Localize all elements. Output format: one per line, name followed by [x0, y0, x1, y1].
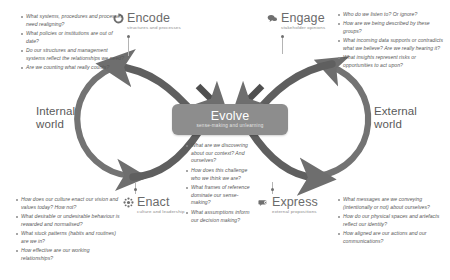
question-item: How are we being described by these grou…	[338, 20, 444, 35]
engage-question-list: Who do we listen to? Or ignore?How are w…	[338, 11, 444, 70]
left-loop-outer-arc	[77, 68, 131, 176]
external-world-line2: world	[374, 118, 417, 131]
node-express-subtitle: external propositions	[272, 210, 318, 215]
node-express-title: Express	[272, 196, 318, 209]
engage-dot	[281, 35, 284, 38]
question-item: Who do we listen to? Or ignore?	[338, 11, 444, 19]
enact-dot	[134, 188, 137, 191]
question-item: What insights represent risks or opportu…	[338, 54, 444, 69]
converge-arrow-right	[244, 86, 262, 104]
converge-arrow-left	[198, 86, 216, 104]
question-item: How does our culture enact our vision an…	[16, 196, 122, 211]
node-enact-subtitle: culture and leadership	[137, 210, 185, 215]
speech-cloud-icon	[267, 13, 278, 24]
express-question-list: What messages are we conveying (intentio…	[338, 196, 444, 246]
question-item: What assumptions inform our decision mak…	[186, 209, 250, 224]
question-item: What frames of reference dominate our se…	[186, 184, 250, 207]
external-world-line1: External	[374, 105, 417, 118]
evolve-center-card: Evolve sense-making and unlearning	[172, 104, 288, 135]
question-item: What incoming data supports or contradic…	[338, 37, 444, 52]
node-engage-subtitle: stakeholder opinions	[281, 26, 325, 31]
internal-world-label: Internal world	[36, 105, 75, 131]
evolve-question-list: What are we discovering about our contex…	[186, 142, 250, 224]
question-item: How do our physical spaces and artefacts…	[338, 213, 444, 228]
question-item: Do our structures and management systems…	[21, 47, 125, 62]
encode-dot	[127, 35, 130, 38]
evolve-subtitle: sense-making and unlearning	[196, 124, 263, 129]
node-engage: Engage stakeholder opinions	[267, 12, 325, 31]
diagram-canvas: Evolve sense-making and unlearning Encod…	[0, 0, 450, 280]
express-dot	[271, 188, 274, 191]
enact-question-list: How does our culture enact our vision an…	[16, 196, 122, 263]
megaphone-bubble-icon	[258, 197, 269, 208]
question-item: Are we counting what really counts?	[21, 64, 125, 72]
question-item: What are we discovering about our contex…	[186, 142, 250, 165]
external-world-label: External world	[374, 105, 417, 131]
encode-stem	[128, 38, 129, 56]
question-item: What desirable or undesirable behaviour …	[16, 213, 122, 228]
question-item: How does this challenge who we think we …	[186, 167, 250, 182]
engage-stem	[282, 38, 283, 54]
engage-questions: Who do we listen to? Or ignore?How are w…	[338, 11, 444, 72]
question-item: How aligned are our actions and our comm…	[338, 230, 444, 245]
evolve-title: Evolve	[211, 110, 250, 123]
node-enact: Enact culture and leadership	[123, 196, 185, 215]
right-loop-lower-arc	[250, 130, 316, 178]
enact-questions: How does our culture enact our vision an…	[16, 196, 122, 264]
question-item: What messages are we conveying (intentio…	[338, 196, 444, 211]
encode-question-list: What systems, procedures and processes n…	[21, 13, 125, 72]
question-item: What systems, procedures and processes n…	[21, 13, 125, 28]
node-express: Express external propositions	[258, 196, 318, 215]
evolve-questions: What are we discovering about our contex…	[186, 142, 250, 226]
question-item: How effective are our working relationsh…	[16, 247, 122, 262]
question-item: What policies or institutions are out of…	[21, 30, 125, 45]
node-encode-subtitle: structures and processes	[127, 26, 181, 31]
encode-questions: What systems, procedures and processes n…	[21, 13, 125, 74]
internal-world-line1: Internal	[36, 105, 75, 118]
express-questions: What messages are we conveying (intentio…	[338, 196, 444, 247]
internal-world-line2: world	[36, 118, 75, 131]
network-nodes-icon	[123, 197, 134, 208]
node-engage-title: Engage	[281, 12, 325, 25]
question-item: What stuck patterns (habits and routines…	[16, 230, 122, 245]
right-loop-outer-arc	[318, 66, 368, 176]
node-encode-title: Encode	[127, 12, 181, 25]
node-enact-title: Enact	[137, 196, 185, 209]
